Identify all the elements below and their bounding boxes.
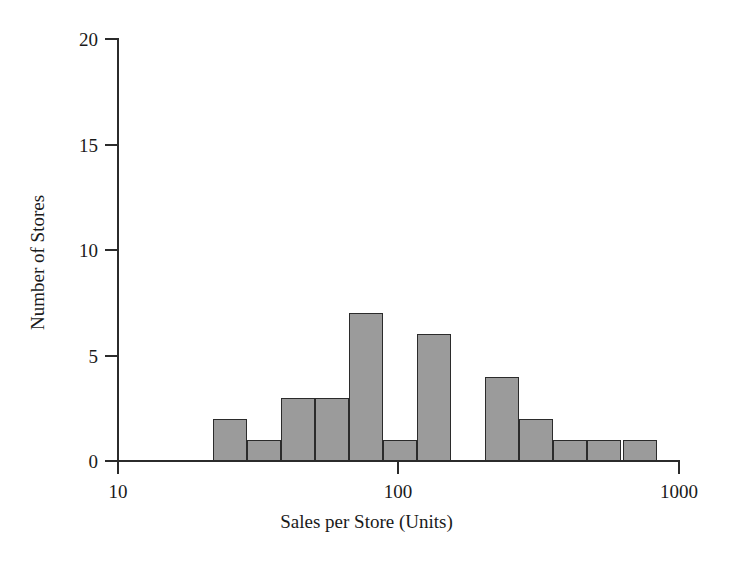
histogram-bar [623, 440, 657, 461]
histogram-bar [587, 440, 621, 461]
x-tick-label-100: 100 [358, 482, 438, 501]
y-tick-label-15: 15 [40, 136, 98, 155]
y-tick-10 [105, 249, 117, 251]
y-tick-label-5: 5 [40, 347, 98, 366]
histogram-chart: 20 15 10 5 0 10 100 1000 Number of Store… [0, 0, 733, 561]
histogram-bar [247, 440, 281, 461]
histogram-bar [281, 398, 315, 462]
histogram-bar [553, 440, 587, 461]
y-tick-label-20: 20 [40, 30, 98, 49]
x-tick-label-1000: 1000 [639, 482, 719, 501]
y-tick-15 [105, 144, 117, 146]
x-tick-10 [117, 460, 119, 474]
x-tick-100 [397, 460, 399, 474]
y-tick-label-10: 10 [40, 241, 98, 260]
y-tick-20 [105, 38, 117, 40]
x-tick-1000 [678, 460, 680, 474]
plot-area: 20 15 10 5 0 10 100 1000 Number of Store… [0, 0, 733, 561]
y-tick-0 [105, 460, 117, 462]
histogram-bar [519, 419, 553, 461]
histogram-bar [485, 377, 519, 462]
x-axis-title: Sales per Store (Units) [0, 512, 733, 532]
histogram-bar [349, 313, 383, 461]
histogram-bar [213, 419, 247, 461]
y-axis-title: Number of Stores [28, 195, 48, 330]
x-tick-label-10: 10 [78, 482, 158, 501]
y-axis-line [117, 38, 119, 462]
histogram-bar [383, 440, 417, 461]
histogram-bar [315, 398, 349, 462]
histogram-bar [417, 334, 451, 461]
y-tick-5 [105, 355, 117, 357]
y-tick-label-0: 0 [40, 452, 98, 471]
